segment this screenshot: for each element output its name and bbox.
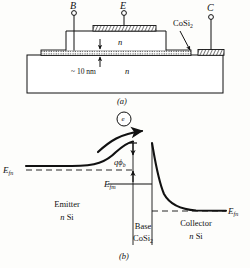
collector-terminal-label: C <box>207 3 214 13</box>
collector-fermi-label: Efn <box>228 207 238 217</box>
caption-b: (b) <box>119 252 129 261</box>
metal-fermi-subscript: fm <box>110 184 116 190</box>
figure-container: B E C CoSi2 n n ~ 10 nm (a) e qϕb Efn Ef… <box>0 0 250 268</box>
collector-contact-pad <box>198 50 224 56</box>
material-callout-leader <box>180 31 190 50</box>
collector-region-line2: n Si <box>160 232 232 241</box>
emitter-lead <box>122 11 127 26</box>
emitter-region-line2: n Si <box>32 213 102 222</box>
collector-region-label: Collector n Si <box>160 219 232 240</box>
collector-fermi-subscript: fn <box>234 211 239 217</box>
base-terminal-label: B <box>70 1 76 11</box>
emitter-region-label: Emitter n Si <box>32 200 102 221</box>
emitter-fermi-label: Efn <box>3 166 13 176</box>
barrier-sub-text: b <box>123 162 126 168</box>
substrate-region-n-label: n <box>125 67 129 76</box>
emitter-region-line1: Emitter <box>32 200 102 209</box>
material-callout-subscript: 2 <box>190 23 193 29</box>
emitter-contact-pad <box>93 26 156 32</box>
emitter-region-n-label: n <box>118 38 122 47</box>
caption-a: (a) <box>117 97 127 106</box>
barrier-height-label: qϕb <box>114 158 126 168</box>
collector-lead <box>209 15 214 50</box>
base-region-line2-subscript: 2 <box>150 237 153 243</box>
collector-region-line2-rest: Si <box>194 231 203 241</box>
material-callout-label: CoSi2 <box>173 19 193 29</box>
material-callout-text: CoSi <box>173 18 190 28</box>
thickness-label: ~ 10 nm <box>71 68 96 76</box>
emitter-terminal-label: E <box>120 1 126 11</box>
emitter-region-line2-rest: Si <box>65 212 74 222</box>
collector-conduction-band <box>152 143 226 211</box>
metal-fermi-label: Efm <box>104 180 116 190</box>
base-silicide-layer <box>41 50 191 55</box>
electron-label: e <box>122 116 125 123</box>
emitter-fermi-subscript: fn <box>9 170 14 176</box>
collector-region-line1: Collector <box>160 219 232 228</box>
emitter-mesa <box>66 31 166 51</box>
base-region-line2-text: CoSi <box>133 233 150 243</box>
